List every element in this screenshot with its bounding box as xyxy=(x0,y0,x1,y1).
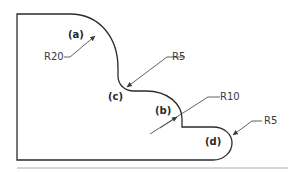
radius-label-r5-d: R5 xyxy=(264,116,277,126)
feature-label-a: (a) xyxy=(68,30,84,40)
radius-label-r20: R20 xyxy=(44,52,64,62)
radius-label-r10: R10 xyxy=(220,92,240,102)
leader-r10-arrow xyxy=(160,117,177,128)
feature-label-d: (d) xyxy=(205,137,221,147)
profile-diagram xyxy=(0,0,294,172)
radius-label-r5-c: R5 xyxy=(172,52,185,62)
feature-label-b: (b) xyxy=(155,106,171,116)
profile-outline xyxy=(17,14,232,160)
leader-r5-d xyxy=(233,121,262,135)
feature-label-c: (c) xyxy=(108,92,123,102)
